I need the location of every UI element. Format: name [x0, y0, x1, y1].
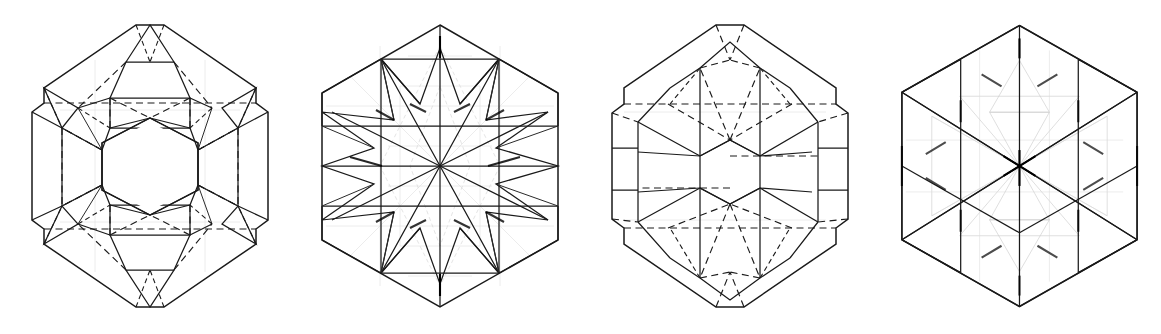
figure-1-diagram: Hexagonal crease pattern with truncated … [0, 0, 290, 334]
figure-3-arms [624, 25, 836, 278]
figure-3-rhombi-mountain [612, 42, 848, 300]
figure-strip: Hexagonal crease pattern with truncated … [0, 0, 1161, 334]
figure-4-diagram: Hexagon subdivided into a regular triang… [870, 0, 1160, 334]
figure-2-diagram: Hexagon containing a twelve-pointed star… [290, 0, 580, 334]
figure-2-cell: Hexagon containing a twelve-pointed star… [290, 0, 580, 334]
figure-3-diagram: Hexagon with three-fold pinwheel of rhom… [580, 0, 870, 334]
figure-4-cell: Hexagon subdivided into a regular triang… [870, 0, 1160, 334]
figure-3-outline [612, 25, 848, 307]
figure-1-cell: Hexagonal crease pattern with truncated … [0, 0, 290, 334]
figure-3-cell: Hexagon with three-fold pinwheel of rhom… [580, 0, 870, 334]
figure-3-valley-folds [612, 25, 848, 307]
figure-3-center-hexagon [700, 140, 760, 204]
figure-1-center-clear [102, 118, 198, 215]
